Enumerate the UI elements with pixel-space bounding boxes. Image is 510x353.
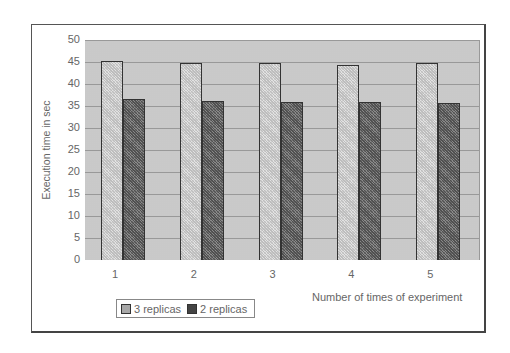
legend-item-3-replicas: 3 replicas [121, 303, 181, 315]
legend: 3 replicas 2 replicas [116, 299, 255, 318]
y-tick-label: 0 [54, 253, 80, 265]
bar-2-replicas-2 [202, 101, 224, 260]
bar-2-replicas-4 [359, 102, 381, 260]
legend-item-2-replicas: 2 replicas [187, 303, 247, 315]
gridline [85, 40, 479, 41]
bar-2-replicas-3 [281, 102, 303, 260]
legend-swatch-icon [187, 304, 197, 314]
bar-3-replicas-2 [180, 63, 202, 260]
bar-2-replicas-5 [438, 103, 460, 260]
x-tick-label: 3 [263, 268, 283, 280]
legend-label: 2 replicas [200, 303, 247, 315]
legend-label: 3 replicas [134, 303, 181, 315]
y-tick-label: 45 [54, 55, 80, 67]
plot-area [85, 40, 480, 260]
x-tick-label: 5 [420, 268, 440, 280]
bar-2-replicas-1 [123, 99, 145, 260]
y-tick-label: 35 [54, 99, 80, 111]
bar-3-replicas-1 [101, 61, 123, 260]
x-tick-label: 4 [341, 268, 361, 280]
x-tick-label: 2 [184, 268, 204, 280]
y-tick-label: 5 [54, 231, 80, 243]
y-tick-label: 10 [54, 209, 80, 221]
bar-3-replicas-5 [416, 63, 438, 260]
y-tick-label: 15 [54, 187, 80, 199]
y-tick-label: 25 [54, 143, 80, 155]
y-tick-label: 40 [54, 77, 80, 89]
x-axis-label: Number of times of experiment [312, 291, 462, 303]
bar-3-replicas-4 [337, 65, 359, 260]
y-tick-label: 30 [54, 121, 80, 133]
legend-swatch-icon [121, 304, 131, 314]
bar-3-replicas-3 [259, 63, 281, 260]
y-tick-label: 20 [54, 165, 80, 177]
y-axis-label: Execution time in sec [40, 100, 52, 199]
y-tick-label: 50 [54, 33, 80, 45]
x-tick-label: 1 [105, 268, 125, 280]
